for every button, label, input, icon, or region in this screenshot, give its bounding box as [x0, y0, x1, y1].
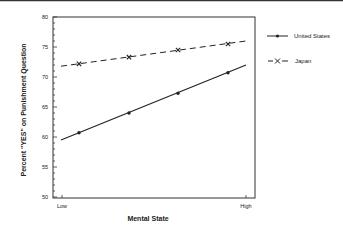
x-axis: LowHigh [57, 195, 252, 209]
data-point-x-marker [176, 48, 180, 52]
legend-label: Japan [295, 58, 311, 64]
data-point-x-marker [77, 62, 81, 66]
y-tick-label: 65 [42, 104, 48, 110]
y-tick-label: 55 [42, 164, 48, 170]
x-tick-label: High [240, 203, 251, 209]
data-point-dot [127, 111, 130, 114]
data-point-x-marker [226, 42, 230, 46]
legend-label: United States [294, 33, 330, 39]
series-united-states [61, 65, 246, 140]
x-tick-label: Low [57, 203, 67, 209]
y-axis-title: Percent "YES" on Punishment Question [20, 43, 28, 176]
legend-item-united-states: United States [267, 33, 330, 39]
y-tick-label: 50 [42, 194, 48, 200]
y-axis: 50556065707580 [42, 14, 57, 200]
y-tick-label: 70 [42, 74, 48, 80]
x-axis-title: Mental State [127, 215, 168, 222]
data-point-dot [77, 131, 80, 134]
y-tick-label: 75 [42, 44, 48, 50]
data-point-dot [176, 92, 179, 95]
series-layer [61, 41, 246, 140]
legend: United States Japan [267, 33, 330, 64]
legend-item-japan: Japan [268, 58, 311, 64]
legend-dot-marker-icon [276, 34, 279, 37]
y-tick-label: 60 [42, 134, 48, 140]
y-tick-label: 80 [42, 14, 48, 20]
legend-x-marker-icon [275, 59, 280, 64]
solid-trend-line [61, 65, 246, 140]
series-japan [61, 41, 246, 66]
data-point-dot [226, 71, 229, 74]
line-chart: 50556065707580 LowHigh Mental State Perc… [0, 0, 343, 229]
dashed-trend-line [61, 41, 246, 66]
